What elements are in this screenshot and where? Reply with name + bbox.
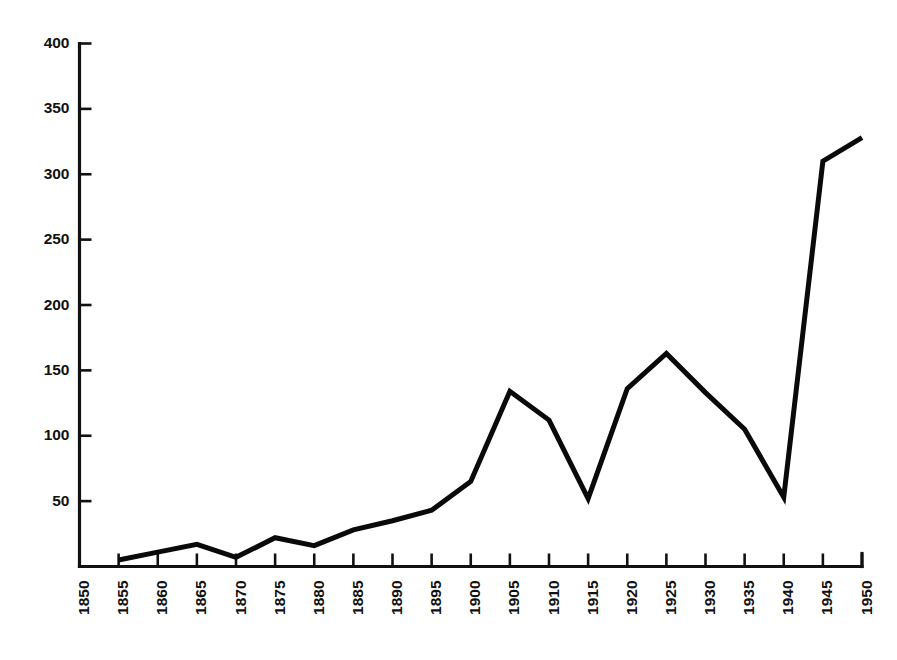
x-axis-tick-label: 1915 <box>584 580 601 615</box>
x-axis-tick-label: 1850 <box>75 581 92 615</box>
x-axis-tick-label: 1880 <box>310 581 327 615</box>
x-axis-tick-label: 1875 <box>271 580 288 615</box>
x-axis-tick-label: 1910 <box>545 581 562 615</box>
plot-background <box>0 0 897 660</box>
y-axis-tick-label: 350 <box>44 99 70 116</box>
x-axis-tick-label: 1855 <box>114 580 131 615</box>
x-axis-tick-label: 1950 <box>858 581 875 615</box>
chart-canvas: 50100150200250300350400 1850185518601865… <box>0 0 897 660</box>
y-axis-tick-label: 200 <box>44 296 70 313</box>
y-axis-tick-label: 150 <box>44 361 70 378</box>
x-axis-tick-label: 1895 <box>427 580 444 615</box>
x-axis-tick-label: 1885 <box>349 580 366 615</box>
x-axis-tick-label: 1860 <box>153 581 170 615</box>
line-chart: 50100150200250300350400 1850185518601865… <box>0 0 897 660</box>
x-axis-tick-label: 1925 <box>662 580 679 615</box>
x-axis-tick-label: 1890 <box>388 581 405 615</box>
x-axis-tick-label: 1945 <box>818 580 835 615</box>
y-axis-tick-label: 250 <box>44 230 70 247</box>
x-axis-tick-label: 1930 <box>701 581 718 615</box>
x-axis-tick-label: 1940 <box>779 581 796 615</box>
x-axis-tick-label: 1870 <box>232 581 249 615</box>
x-axis-tick-label: 1865 <box>192 580 209 615</box>
y-axis-tick-label: 100 <box>44 426 70 443</box>
x-axis-tick-label: 1935 <box>740 580 757 615</box>
x-axis-tick-label: 1920 <box>623 581 640 615</box>
x-axis-tick-label: 1905 <box>505 580 522 615</box>
x-axis-tick-label: 1900 <box>466 581 483 615</box>
y-axis-tick-label: 50 <box>52 492 69 509</box>
y-axis-tick-label: 400 <box>44 34 70 51</box>
y-axis-tick-label: 300 <box>44 165 70 182</box>
